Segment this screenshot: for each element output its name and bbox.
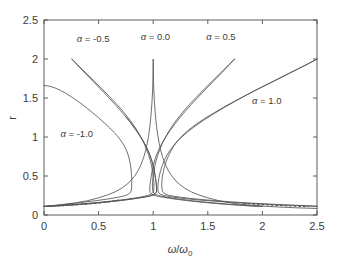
y-tick-label: 1 — [32, 131, 38, 143]
annotation-label: α = -0.5 — [77, 33, 110, 44]
y-axis-title: r — [6, 116, 18, 120]
x-tick-label: 0 — [41, 220, 47, 232]
annotation-label: α = 0.5 — [206, 31, 235, 42]
figure-container: 00.511.522.5 00.511.522.5 α = -0.5α = 0.… — [0, 0, 337, 268]
y-tick-label: 2 — [32, 53, 38, 65]
y-tick-label: 2.5 — [23, 14, 38, 26]
y-tick-label: 1.5 — [23, 92, 38, 104]
annotation-label: α = -1.0 — [60, 128, 93, 139]
y-tick-label: 0.5 — [23, 170, 38, 182]
frequency-response-chart: 00.511.522.5 00.511.522.5 α = -0.5α = 0.… — [0, 0, 337, 268]
annotation-label: α = 1.0 — [252, 95, 281, 106]
y-tick-label: 0 — [32, 209, 38, 221]
x-tick-label: 2 — [259, 220, 265, 232]
x-tick-label: 2.5 — [309, 220, 324, 232]
x-tick-label: 1 — [150, 220, 156, 232]
annotation-label: α = 0.0 — [141, 31, 170, 42]
x-tick-label: 1.5 — [200, 220, 215, 232]
x-tick-label: 0.5 — [91, 220, 106, 232]
